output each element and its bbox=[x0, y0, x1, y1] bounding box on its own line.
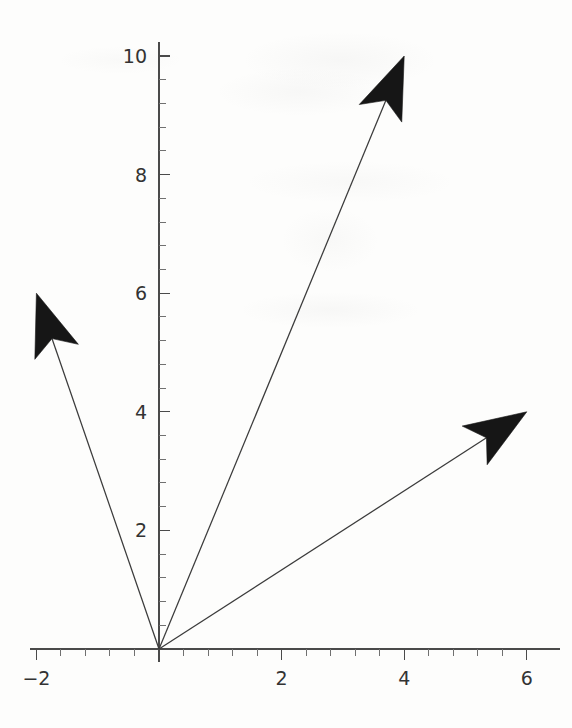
vector-2 bbox=[159, 56, 404, 649]
vector-arrowhead bbox=[35, 293, 78, 359]
y-tick-label: 6 bbox=[135, 282, 147, 304]
x-tick-label: 2 bbox=[276, 667, 288, 689]
x-axis-tick-labels: −2246 bbox=[22, 667, 532, 689]
plot-canvas: −2246 246810 bbox=[0, 0, 572, 728]
vector-1 bbox=[35, 293, 159, 649]
x-tick-label: −2 bbox=[22, 667, 50, 689]
vector-plot-figure: −2246 246810 bbox=[0, 0, 572, 728]
vector-shaft bbox=[159, 89, 390, 649]
x-tick-label: 6 bbox=[521, 667, 533, 689]
vector-3 bbox=[159, 412, 527, 649]
y-tick-label: 10 bbox=[123, 45, 147, 67]
x-tick-label: 4 bbox=[398, 667, 410, 689]
vector-shaft bbox=[159, 431, 497, 649]
vector-arrowhead bbox=[359, 56, 404, 122]
y-axis-ticks bbox=[159, 56, 170, 625]
y-axis-group: 246810 bbox=[123, 42, 170, 649]
y-tick-label: 8 bbox=[135, 164, 147, 186]
x-axis-ticks bbox=[36, 649, 526, 662]
y-axis-tick-labels: 246810 bbox=[123, 45, 147, 541]
vector-arrows-group bbox=[35, 56, 527, 649]
y-tick-label: 4 bbox=[135, 401, 147, 423]
vector-shaft bbox=[48, 327, 159, 649]
x-axis-group: −2246 bbox=[22, 649, 560, 689]
vector-arrowhead bbox=[462, 412, 527, 465]
y-tick-label: 2 bbox=[135, 519, 147, 541]
